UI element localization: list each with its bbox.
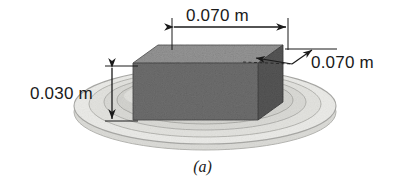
rectangular-block (133, 45, 283, 120)
dimension-label-height: 0.030 m (30, 84, 93, 104)
dimension-label-depth: 0.070 m (311, 53, 374, 73)
block-front-face (133, 63, 258, 120)
depth-arrow-upper (292, 50, 312, 64)
figure-caption: (a) (0, 158, 405, 176)
block-top-face (133, 45, 283, 63)
figure-panel: 0.070 m 0.070 m 0.030 m (a) (0, 0, 405, 186)
dimension-label-width: 0.070 m (186, 6, 249, 26)
